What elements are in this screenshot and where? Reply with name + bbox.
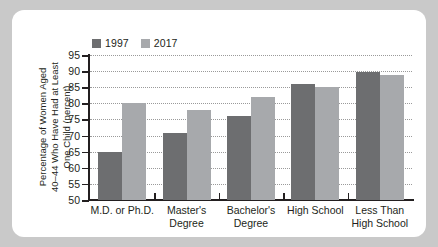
- x-axis-group-tick-1: [219, 193, 221, 200]
- y-tick-95: [82, 55, 89, 57]
- x-axis-label-0: M.D. or Ph.D.: [90, 204, 154, 217]
- x-axis-group-tick-2: [283, 193, 285, 200]
- y-tick-65: [82, 152, 89, 154]
- bar-1997-1: [163, 133, 187, 200]
- legend-swatch-2017: [141, 39, 150, 48]
- x-axis-label-4-line-1: High School: [348, 217, 412, 230]
- y-tick-label-65: 65: [58, 147, 80, 158]
- y-axis-tick-labels: 50556065707580859095: [56, 10, 80, 247]
- gridline-95: [90, 55, 412, 56]
- bar-1997-0: [98, 152, 122, 200]
- y-tick-label-75: 75: [58, 114, 80, 125]
- y-tick-label-50: 50: [58, 195, 80, 206]
- x-axis-group-tick-0: [154, 193, 156, 200]
- x-axis-label-1-line-0: Master's: [154, 204, 218, 217]
- x-axis-label-2-line-0: Bachelor's: [219, 204, 283, 217]
- y-tick-label-80: 80: [58, 98, 80, 109]
- y-tick-80: [82, 103, 89, 105]
- y-tick-label-55: 55: [58, 179, 80, 190]
- x-axis-label-0-line-0: M.D. or Ph.D.: [90, 204, 154, 217]
- y-tick-50: [82, 200, 89, 202]
- x-axis-label-2-line-1: Degree: [219, 217, 283, 230]
- legend-label-1997: 1997: [105, 38, 129, 49]
- bar-2017-2: [251, 97, 275, 200]
- y-tick-70: [82, 136, 89, 138]
- x-axis-label-3: High School: [283, 204, 347, 217]
- y-tick-60: [82, 168, 89, 170]
- x-axis-label-1: Master'sDegree: [154, 204, 218, 229]
- x-axis-label-3-line-0: High School: [283, 204, 347, 217]
- y-tick-75: [82, 119, 89, 121]
- plot-area: [90, 55, 412, 200]
- y-tick-label-95: 95: [58, 50, 80, 61]
- bar-2017-0: [122, 103, 146, 200]
- y-tick-label-85: 85: [58, 82, 80, 93]
- x-axis-label-1-line-1: Degree: [154, 217, 218, 230]
- legend-label-2017: 2017: [154, 38, 178, 49]
- bar-1997-4: [356, 72, 380, 200]
- y-tick-label-60: 60: [58, 163, 80, 174]
- bar-2017-1: [187, 110, 211, 200]
- x-axis-label-4-line-0: Less Than: [348, 204, 412, 217]
- y-tick-label-70: 70: [58, 131, 80, 142]
- chart-legend: 1997 2017: [92, 36, 178, 50]
- bar-2017-4: [380, 75, 404, 200]
- y-tick-90: [82, 71, 89, 73]
- legend-item-2017: 2017: [141, 38, 178, 49]
- chart-card: 1997 2017 Percentage of Women Aged 40–44…: [12, 10, 426, 237]
- bar-1997-2: [227, 116, 251, 200]
- y-tick-85: [82, 87, 89, 89]
- x-axis-label-4: Less ThanHigh School: [348, 204, 412, 229]
- bar-1997-3: [291, 84, 315, 200]
- x-axis-group-tick-3: [348, 193, 350, 200]
- y-tick-label-90: 90: [58, 66, 80, 77]
- x-axis-label-2: Bachelor'sDegree: [219, 204, 283, 229]
- bar-2017-3: [315, 87, 339, 200]
- legend-swatch-1997: [92, 39, 101, 48]
- legend-item-1997: 1997: [92, 38, 129, 49]
- y-tick-55: [82, 184, 89, 186]
- y-axis-title-line-1: Percentage of Women Aged: [37, 68, 48, 187]
